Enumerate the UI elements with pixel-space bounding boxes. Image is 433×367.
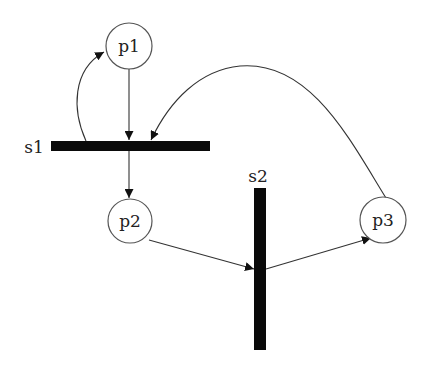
place-p1: p1 [106,23,152,69]
arc-s2-p3 [266,238,371,269]
arc-p2-s2 [149,240,254,269]
transition-s1-label: s1 [24,137,44,157]
place-p3: p3 [360,197,406,243]
petri-net-diagram: p1 p2 p3 s1 s2 [0,0,433,367]
transition-s1 [51,141,210,151]
place-p1-label: p1 [118,36,140,56]
transition-s2 [254,188,266,350]
transition-s2-label: s2 [248,166,268,186]
place-p2: p2 [108,199,152,243]
arc-p3-s1 [151,66,386,198]
arc-s1-p1 [77,52,104,141]
place-p3-label: p3 [372,210,394,230]
place-p2-label: p2 [119,211,141,231]
